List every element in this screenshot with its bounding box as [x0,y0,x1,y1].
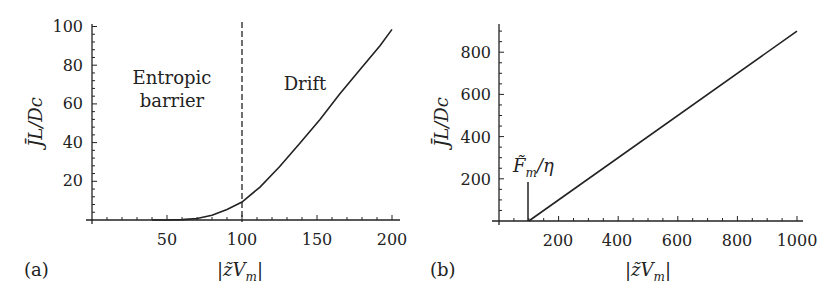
panel-b-label: (b) [430,259,456,280]
panel-a-annotation-drift: Drift [284,73,327,94]
panel-a-xtick-100: 100 [227,230,258,249]
panel-a-xlabel: |z̃Vm| [217,259,263,284]
panel-b-xtick-400: 400 [602,231,633,250]
panel-a-xtick-200: 200 [377,230,408,249]
panel-b-threshold-label: F̃m/η [512,155,554,180]
panel-a-label: (a) [24,259,49,280]
panel-b-xtick-1000: 1000 [777,231,818,250]
panel-b-ytick-400: 400 [460,128,491,147]
panel-a-xtick-150: 150 [302,230,333,249]
panel-a-x-ticks [107,215,392,220]
panel-a-ytick-40: 40 [63,133,83,152]
panel-b: 200 400 600 800 200 400 600 800 1000 F̃m… [430,24,818,284]
panel-b-y-ticks [499,31,504,210]
panel-a-ytick-100: 100 [52,17,83,36]
panel-a-ytick-20: 20 [63,171,83,190]
panel-b-ytick-600: 600 [460,85,491,104]
panel-a-y-ticks [92,27,97,213]
panel-a-curve [152,29,392,220]
panel-a-ylabel: J̄L/Dc [24,97,46,151]
panel-b-ylabel: J̄L/Dc [430,97,452,151]
panel-b-xtick-200: 200 [543,231,574,250]
panel-b-x-ticks [514,216,797,221]
panel-a: 20 40 60 80 100 50 100 150 200 Entropic … [24,17,408,284]
figure: 20 40 60 80 100 50 100 150 200 Entropic … [0,0,836,299]
panel-b-line [529,31,797,221]
panel-a-ytick-60: 60 [63,94,83,113]
panel-a-annotation-entropic: Entropic [133,67,212,88]
panel-b-ytick-200: 200 [460,170,491,189]
panel-b-xlabel: |z̃Vm| [625,259,671,284]
panel-b-ytick-800: 800 [460,43,491,62]
panel-a-xtick-50: 50 [157,230,177,249]
panel-a-ytick-80: 80 [63,56,83,75]
panel-a-annotation-barrier: barrier [140,90,205,111]
panel-b-xtick-600: 600 [662,231,693,250]
panel-b-xtick-800: 800 [722,231,753,250]
